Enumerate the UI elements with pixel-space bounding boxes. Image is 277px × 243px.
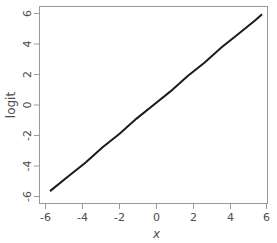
y-tick-label: -2 [21,130,34,141]
y-tick-label: 6 [21,10,34,17]
y-tick-label: 4 [21,41,34,48]
y-axis-title: logit [4,92,18,119]
y-tick-label: -4 [21,161,34,172]
y-tick-label: 2 [21,71,34,78]
data-series-line [50,14,262,191]
x-axis-tick-labels: -6 -4 -2 0 2 4 6 [40,211,270,224]
x-tick-label: -6 [40,211,51,224]
y-tick-label: -6 [21,191,34,202]
x-tick-label: 2 [190,211,197,224]
x-tick-label: -2 [114,211,125,224]
y-axis-ticks [34,14,39,197]
x-tick-label: 4 [227,211,234,224]
y-axis-tick-labels: 6 4 2 0 -2 -4 -6 [21,10,34,202]
x-tick-label: 0 [153,211,160,224]
x-tick-label: 6 [263,211,270,224]
y-tick-label: 0 [21,102,34,109]
chart-figure: -6 -4 -2 0 2 4 6 6 4 2 0 -2 -4 -6 [0,0,277,243]
plot-canvas: -6 -4 -2 0 2 4 6 6 4 2 0 -2 -4 -6 [0,0,277,243]
x-axis-ticks [46,204,267,209]
x-tick-label: -4 [77,211,88,224]
x-axis-title: x [152,227,161,241]
